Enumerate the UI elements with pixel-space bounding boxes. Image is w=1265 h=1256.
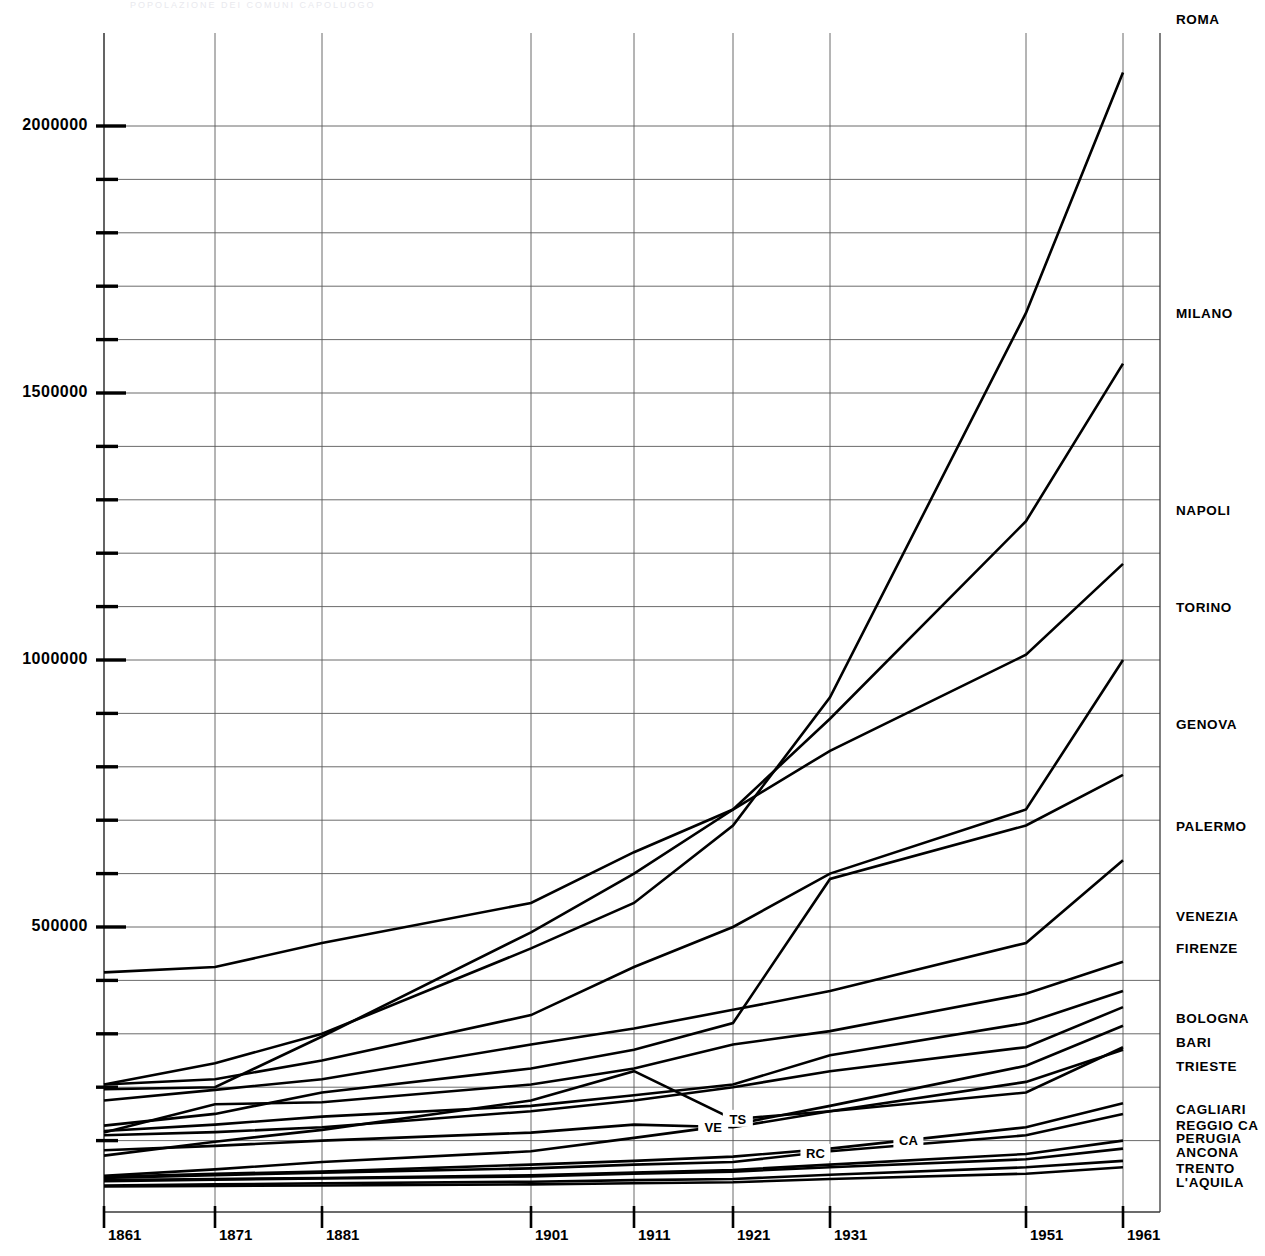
series-line xyxy=(104,962,1123,1133)
y-tick-label: 500000 xyxy=(32,917,88,934)
inline-series-label: CA xyxy=(899,1133,918,1148)
x-tick-group xyxy=(104,1206,1123,1228)
inline-series-label: RC xyxy=(806,1146,825,1161)
y-tick-label: 2000000 xyxy=(22,116,88,133)
y-tick-label: 1000000 xyxy=(22,650,88,667)
y-tick-group xyxy=(96,126,126,1141)
series-name-label: VENEZIA xyxy=(1176,909,1239,924)
series-name-label-group: ROMAMILANONAPOLITORINOGENOVAPALERMOVENEZ… xyxy=(1176,12,1259,1190)
x-tick-label: 1901 xyxy=(535,1226,568,1243)
series-name-label: ANCONA xyxy=(1176,1145,1239,1160)
x-tick-label: 1931 xyxy=(834,1226,867,1243)
series-line xyxy=(104,1026,1123,1176)
series-name-label: ROMA xyxy=(1176,12,1220,27)
x-tick-label: 1861 xyxy=(108,1226,141,1243)
chart-page: POPOLAZIONE DEI COMUNI CAPOLUOGO 5000001… xyxy=(0,0,1265,1256)
series-name-label: L'AQUILA xyxy=(1176,1175,1244,1190)
series-name-label: BOLOGNA xyxy=(1176,1011,1249,1026)
y-tick-label: 1500000 xyxy=(22,383,88,400)
x-tick-label-group: 186118711881190119111921193119511961 xyxy=(108,1226,1160,1243)
series-name-label: TRENTO xyxy=(1176,1161,1235,1176)
series-name-label: TRIESTE xyxy=(1176,1059,1237,1074)
population-line-chart: 500000100000015000002000000 186118711881… xyxy=(0,0,1265,1256)
series-line xyxy=(104,660,1123,1085)
series-name-label: TORINO xyxy=(1176,600,1232,615)
series-name-label: FIRENZE xyxy=(1176,941,1238,956)
inline-series-label-group: TSVECARC xyxy=(698,1110,923,1161)
x-tick-label: 1951 xyxy=(1030,1226,1063,1243)
x-tick-label: 1881 xyxy=(326,1226,359,1243)
inline-series-label: TS xyxy=(730,1112,747,1127)
series-name-label: PALERMO xyxy=(1176,819,1247,834)
x-tick-label: 1911 xyxy=(638,1226,671,1243)
series-name-label: GENOVA xyxy=(1176,717,1237,732)
y-tick-label-group: 500000100000015000002000000 xyxy=(22,116,88,934)
x-tick-label: 1961 xyxy=(1127,1226,1160,1243)
inline-series-label: VE xyxy=(705,1120,723,1135)
series-name-label: PERUGIA xyxy=(1176,1131,1242,1146)
series-name-label: MILANO xyxy=(1176,306,1233,321)
x-tick-label: 1921 xyxy=(737,1226,770,1243)
gridlines-group xyxy=(104,33,1160,1212)
series-line xyxy=(104,1050,1123,1150)
series-name-label: BARI xyxy=(1176,1035,1211,1050)
series-name-label: CAGLIARI xyxy=(1176,1102,1246,1117)
series-line xyxy=(104,991,1123,1131)
axes-group xyxy=(104,33,1160,1212)
x-tick-label: 1871 xyxy=(219,1226,252,1243)
series-lines-group xyxy=(104,73,1123,1187)
series-name-label: NAPOLI xyxy=(1176,503,1231,518)
